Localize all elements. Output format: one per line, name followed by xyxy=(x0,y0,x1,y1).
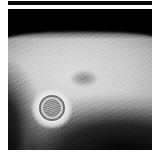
tissue-top-edge-feather xyxy=(8,27,152,39)
image-viewer[interactable] xyxy=(0,0,159,158)
header-bar xyxy=(8,1,152,5)
scan-panel[interactable] xyxy=(8,9,152,150)
hypoechoic-nodule xyxy=(71,71,97,86)
target-sign-lesion[interactable] xyxy=(32,88,72,128)
lesion-core-speckle xyxy=(43,99,61,117)
